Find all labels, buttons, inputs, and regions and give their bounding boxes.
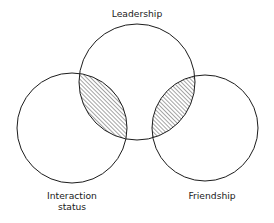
venn-diagram-figure: Leadership Interactionstatus Friendship [0,0,274,223]
label-leadership: Leadership [112,8,163,19]
venn-diagram-canvas: Leadership Interactionstatus Friendship [0,0,274,223]
label-friendship: Friendship [188,190,235,201]
